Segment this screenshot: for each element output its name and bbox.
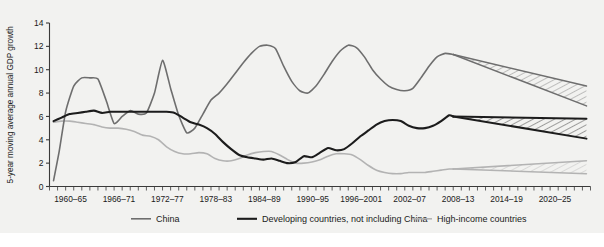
y-axis-tick-label: 4 (39, 135, 44, 145)
x-axis-tick-label: 1972–77 (151, 194, 184, 204)
y-axis-tick-label: 0 (39, 182, 44, 192)
x-axis-tick-label: 1990–95 (296, 194, 329, 204)
x-axis-tick-label: 2020–25 (539, 194, 572, 204)
legend-label-1: Developing countries, not including Chin… (262, 214, 428, 224)
y-axis-tick-label: 10 (34, 65, 44, 75)
x-axis-tick-label: 1984–89 (248, 194, 281, 204)
y-axis-tick-label: 8 (39, 88, 44, 98)
x-axis-tick-label: 1960–65 (54, 194, 87, 204)
x-axis-tick-label: 2008–13 (442, 194, 475, 204)
legend-label-0: China (156, 214, 180, 224)
x-axis-tick-label: 1996–2001 (340, 194, 382, 204)
y-axis-tick-label: 6 (39, 112, 44, 122)
y-axis-tick-label: 2 (39, 158, 44, 168)
x-axis-tick-label: 2014–19 (490, 194, 523, 204)
x-axis-tick-label: 1978–83 (200, 194, 233, 204)
chart-figure: 024681012145-year moving average annual … (0, 0, 604, 247)
gdp-growth-line-chart: 024681012145-year moving average annual … (0, 0, 604, 247)
x-axis-tick-label: 2002–07 (393, 194, 426, 204)
legend-label-2: High-income countries (437, 214, 527, 224)
x-axis-tick-label: 1966–71 (103, 194, 136, 204)
chart-plot-area: 024681012145-year moving average annual … (0, 0, 604, 247)
figure-bottom-strip (0, 233, 604, 247)
y-axis-tick-label: 14 (34, 18, 44, 28)
y-axis-title: 5-year moving average annual GDP growth (6, 26, 15, 184)
y-axis-tick-label: 12 (34, 41, 44, 51)
